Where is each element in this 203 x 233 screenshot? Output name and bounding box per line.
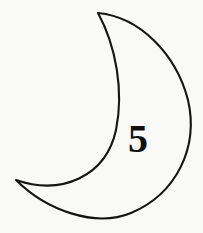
crescent-moon-figure: 5 [0, 0, 203, 233]
figure-canvas: 5 [0, 0, 203, 233]
number-label: 5 [128, 116, 148, 161]
figure-background [0, 0, 203, 233]
